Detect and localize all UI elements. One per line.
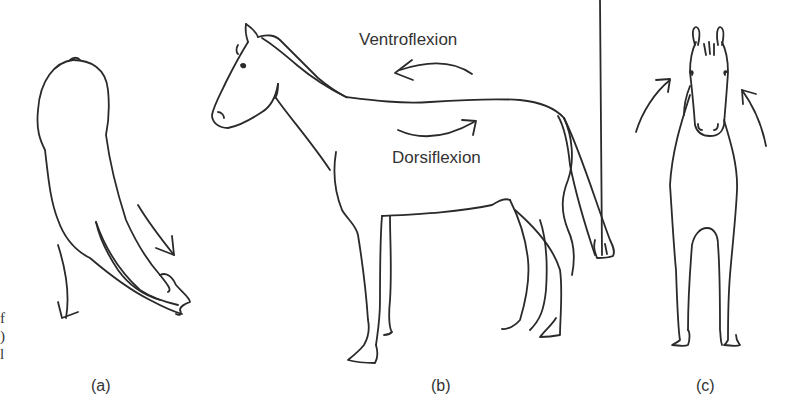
ventroflexion-label: Ventroflexion: [359, 30, 457, 50]
panel-c-horse-front-drawing: [636, 27, 766, 346]
panel-b-horse-side-drawing: [212, 0, 614, 363]
panel-a-neck-drawing: [37, 58, 190, 318]
line-drawing: [0, 0, 786, 413]
panel-label-c: (c): [696, 377, 715, 395]
panel-label-a: (a): [91, 377, 111, 395]
horse-flexion-figure: f ) l: [0, 0, 786, 413]
dorsiflexion-label: Dorsiflexion: [392, 148, 481, 168]
panel-label-b: (b): [431, 377, 451, 395]
